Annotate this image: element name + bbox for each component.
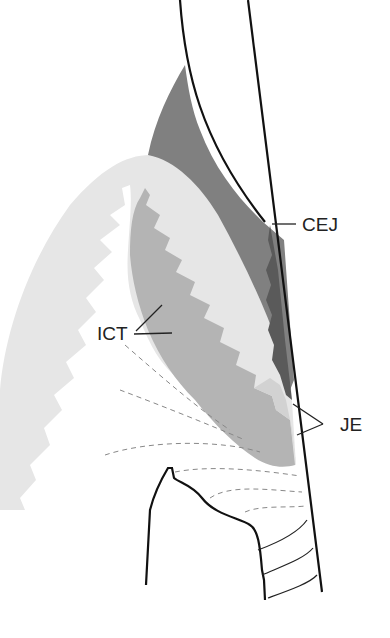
pdl-fiber [258, 520, 307, 550]
pdl-fiber [262, 548, 313, 575]
ict-label: ICT [97, 323, 128, 344]
alveolar-bone-outline [146, 468, 265, 600]
gingiva-diagram: CEJ ICT JE [0, 0, 390, 638]
pdl-fiber [268, 575, 317, 598]
je-leader-line-1 [293, 404, 323, 424]
je-label: JE [340, 414, 362, 435]
cej-label: CEJ [302, 214, 338, 235]
